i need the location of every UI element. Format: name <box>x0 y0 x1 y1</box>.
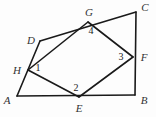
vertex-label-F: F <box>141 52 148 63</box>
segment-BC <box>135 12 136 95</box>
figure-canvas <box>0 0 156 117</box>
segment-HE <box>28 70 79 97</box>
angle-3-label: 3 <box>119 52 124 62</box>
vertex-label-C: C <box>141 2 148 13</box>
vertex-label-G: G <box>85 7 93 18</box>
vertex-label-E: E <box>76 103 83 114</box>
vertex-label-A: A <box>4 95 11 106</box>
vertex-label-B: B <box>141 95 148 106</box>
segment-FG <box>88 22 133 57</box>
vertex-label-D: D <box>27 35 35 46</box>
angle-1-label: 1 <box>36 63 41 73</box>
segment-EF <box>79 57 133 97</box>
angle-4-label: 4 <box>89 26 94 36</box>
vertex-label-H: H <box>13 65 21 76</box>
geometry-figure: ABCDEFGH1234 <box>0 0 156 117</box>
angle-2-label: 2 <box>74 83 79 93</box>
